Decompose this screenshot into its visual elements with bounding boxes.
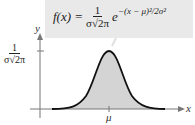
x-axis-label: x (186, 102, 191, 114)
y-tick-denominator: σ√2π (4, 54, 25, 66)
x-tick-label-mu: μ (106, 111, 112, 123)
y-tick-label: 1 σ√2π (4, 42, 25, 66)
area-under-curve (52, 51, 165, 109)
formula-pointer (112, 38, 116, 46)
bell-curve-plot (0, 0, 195, 125)
y-axis-label: y (35, 22, 40, 34)
y-tick-numerator: 1 (9, 42, 20, 54)
x-axis-arrow-icon (178, 106, 185, 112)
y-axis-arrow-icon (37, 33, 43, 40)
